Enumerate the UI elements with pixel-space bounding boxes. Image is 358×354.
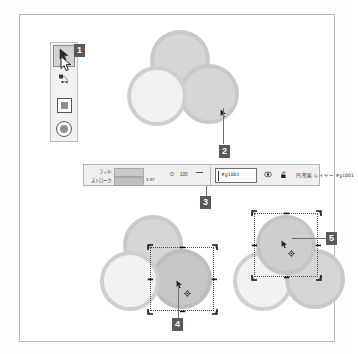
selection-handle-e[interactable] (315, 242, 322, 249)
ellipse-icon (56, 121, 72, 137)
selection-handle-ne[interactable] (315, 210, 322, 217)
selection-handle-sw[interactable] (147, 308, 154, 315)
status-description: 円 所属 レイヤー #g1001 (296, 172, 354, 178)
selection-handle-nw[interactable] (147, 244, 154, 251)
circle-right[interactable] (179, 64, 239, 124)
badge-1: 1 (74, 44, 85, 57)
visibility-eye-icon[interactable] (264, 171, 272, 179)
ellipse-icon-fill (60, 125, 68, 133)
mouse-pointer-icon (60, 56, 73, 76)
selection-handle-se[interactable] (315, 274, 322, 281)
separator (210, 167, 211, 185)
selection-handle-se[interactable] (211, 308, 218, 315)
circle-group-bottom-right[interactable] (233, 215, 358, 320)
circle-group-top[interactable] (127, 30, 247, 135)
status-bar: フィル: ストローク: 3.87 O: 100 #g1001 (83, 164, 320, 186)
opacity-value[interactable]: 100 (180, 172, 188, 177)
tool-ellipse[interactable] (54, 119, 74, 139)
stroke-width-value[interactable]: 3.87 (146, 177, 155, 182)
object-id-field[interactable]: #g1001 (215, 168, 257, 183)
rotation-center-marker[interactable] (288, 243, 295, 250)
badge-5: 5 (326, 232, 337, 245)
leader-line-4 (178, 285, 179, 318)
document-frame: 2 フィル: ストローク: 3.87 O: 100 #g1001 (19, 14, 335, 342)
selection-handle-n[interactable] (179, 244, 186, 251)
circle-left[interactable] (127, 66, 187, 126)
badge-2: 2 (219, 145, 230, 158)
object-id-value: #g1001 (221, 172, 239, 177)
selection-handle-w[interactable] (147, 276, 154, 283)
opacity-slider[interactable] (196, 172, 203, 173)
selection-handle-s[interactable] (283, 274, 290, 281)
fill-stroke-labels: フィル: ストローク: (88, 167, 112, 185)
arrow-cursor-icon (176, 275, 183, 284)
circle-group-bottom-left[interactable] (100, 215, 225, 320)
rectangle-icon-fill (61, 102, 68, 109)
arrow-cursor-icon (281, 235, 288, 244)
badge-4: 4 (172, 318, 183, 331)
rectangle-icon (57, 98, 72, 113)
leader-line-2 (223, 108, 224, 144)
selection-handle-sw[interactable] (251, 274, 258, 281)
selection-handle-ne[interactable] (211, 244, 218, 251)
stroke-swatch[interactable] (114, 177, 144, 186)
selection-handle-n[interactable] (283, 210, 290, 217)
text-caret (218, 171, 219, 181)
fill-label: フィル: (88, 167, 112, 176)
tool-rectangle[interactable] (54, 95, 74, 115)
rotation-center-marker[interactable] (184, 283, 191, 290)
selection-handle-w[interactable] (251, 242, 258, 249)
opacity-label: O: (170, 172, 175, 177)
stroke-label: ストローク: (88, 176, 112, 185)
selection-handle-nw[interactable] (251, 210, 258, 217)
lock-open-icon[interactable] (280, 171, 288, 180)
selection-handle-s[interactable] (179, 308, 186, 315)
leader-line-3 (206, 186, 207, 196)
fill-swatch[interactable] (114, 168, 144, 177)
badge-3: 3 (200, 196, 211, 209)
selection-handle-e[interactable] (211, 276, 218, 283)
leader-line-5 (292, 238, 326, 239)
